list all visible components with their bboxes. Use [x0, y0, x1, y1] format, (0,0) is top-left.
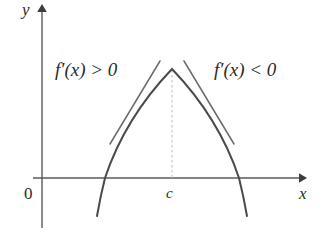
y-axis-arrow-icon [37, 4, 47, 12]
local-maximum-diagram: y x 0 c f′(x) > 0 f′(x) < 0 [0, 0, 323, 247]
derivative-positive-label: f′(x) > 0 [55, 60, 117, 79]
y-axis [37, 4, 47, 228]
derivative-negative-label: f′(x) < 0 [214, 60, 276, 79]
x-axis [33, 173, 307, 183]
plot-canvas [0, 0, 323, 247]
critical-point-label: c [166, 186, 173, 201]
y-axis-label: y [22, 1, 30, 18]
origin-label: 0 [24, 185, 33, 202]
x-axis-arrow-icon [299, 173, 307, 183]
tangent-line-left [110, 61, 160, 144]
x-axis-label: x [299, 185, 307, 202]
